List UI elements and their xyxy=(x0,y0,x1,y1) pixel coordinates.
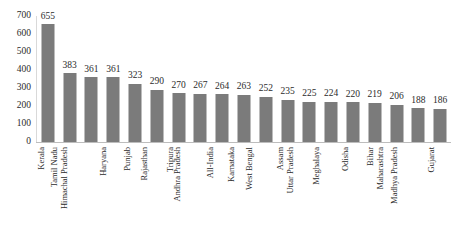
bar-value-label: 235 xyxy=(280,87,294,97)
x-tick-label: All-India xyxy=(207,147,216,178)
x-tick-label: Tamil Nadu xyxy=(50,147,59,187)
x-tick-label: Haryana xyxy=(99,147,108,176)
x-tick-slot: Odisha xyxy=(342,145,364,237)
bar-slot: 186 xyxy=(429,16,451,142)
bar-value-label: 206 xyxy=(389,92,403,102)
x-tick-label: Karnataka xyxy=(227,147,236,182)
bar[interactable] xyxy=(85,77,98,142)
bar-slot: 290 xyxy=(146,16,168,142)
y-tick-label: 400 xyxy=(17,65,31,75)
bar[interactable] xyxy=(216,94,229,142)
bar-slot: 270 xyxy=(168,16,190,142)
bar-slot: 220 xyxy=(342,16,364,142)
bar-value-label: 263 xyxy=(237,82,251,92)
y-tick-label: 600 xyxy=(17,29,31,39)
bar-value-label: 186 xyxy=(433,96,447,106)
x-tick-label: West Bengal xyxy=(244,147,253,190)
bar-value-label: 655 xyxy=(41,12,55,22)
bar-slot: 224 xyxy=(320,16,342,142)
bar[interactable] xyxy=(63,73,76,142)
x-tick-label: Madhya Pradesh xyxy=(390,147,399,204)
y-tick-label: 500 xyxy=(17,47,31,57)
bar-value-label: 224 xyxy=(324,89,338,99)
bar[interactable] xyxy=(172,93,185,142)
bar-slot: 252 xyxy=(255,16,277,142)
bar-slot: 225 xyxy=(298,16,320,142)
bar-slot: 383 xyxy=(59,16,81,142)
x-tick-label: Kerala xyxy=(37,147,46,170)
bar[interactable] xyxy=(281,100,294,142)
bar[interactable] xyxy=(390,105,403,142)
x-tick-slot: Meghalaya xyxy=(320,145,342,237)
x-tick-slot: Gujarat xyxy=(429,145,451,237)
y-tick-label: 100 xyxy=(17,119,31,129)
bar-slot: 206 xyxy=(386,16,408,142)
x-tick-label: Assam xyxy=(276,147,285,170)
bar-slot: 361 xyxy=(81,16,103,142)
x-tick-slot: West Bengal xyxy=(255,145,277,237)
bar-slot: 263 xyxy=(233,16,255,142)
bar[interactable] xyxy=(346,102,359,142)
bar[interactable] xyxy=(107,77,120,142)
x-axis-category-labels: KeralaTamil NaduHimachal PradeshHaryanaP… xyxy=(37,145,451,237)
bar[interactable] xyxy=(129,84,142,142)
x-axis-line xyxy=(36,142,451,143)
y-axis: 0100200300400500600700 xyxy=(0,0,34,145)
x-tick-label: Rajasthan xyxy=(140,147,149,181)
x-tick-label: Andhra Pradesh xyxy=(173,147,182,202)
y-tick-label: 300 xyxy=(17,83,31,93)
plot-area: 6553833613613232902702672642632522352252… xyxy=(37,16,451,142)
x-tick-label: Gujarat xyxy=(427,147,436,173)
bar-slot: 361 xyxy=(102,16,124,142)
x-tick-label: Bihar xyxy=(365,147,374,166)
bar-value-label: 361 xyxy=(106,65,120,75)
bar-slot: 235 xyxy=(277,16,299,142)
bar-value-label: 264 xyxy=(215,82,229,92)
bar[interactable] xyxy=(325,102,338,142)
bar[interactable] xyxy=(194,94,207,142)
bar-value-label: 270 xyxy=(172,81,186,91)
bar[interactable] xyxy=(41,24,54,142)
bar-value-label: 225 xyxy=(302,89,316,99)
y-tick-label: 700 xyxy=(17,11,31,21)
bar-chart: 0100200300400500600700 65538336136132329… xyxy=(0,0,455,237)
bar-value-label: 290 xyxy=(150,77,164,87)
bar-value-label: 188 xyxy=(411,96,425,106)
bar-value-label: 220 xyxy=(346,90,360,100)
bar-value-label: 219 xyxy=(368,90,382,100)
bar-slot: 655 xyxy=(37,16,59,142)
bar[interactable] xyxy=(237,95,250,142)
bar[interactable] xyxy=(259,97,272,142)
x-tick-label: Uttar Pradesh xyxy=(286,147,295,194)
y-tick-label: 200 xyxy=(17,101,31,111)
bar[interactable] xyxy=(150,90,163,142)
bar-slot: 323 xyxy=(124,16,146,142)
bar[interactable] xyxy=(368,103,381,142)
bar-value-label: 323 xyxy=(128,71,142,81)
bar-slot: 264 xyxy=(211,16,233,142)
bar-slot: 219 xyxy=(364,16,386,142)
x-tick-label: Meghalaya xyxy=(312,147,321,185)
y-tick-label: 0 xyxy=(26,137,31,147)
bar-value-label: 383 xyxy=(63,61,77,71)
bar-value-label: 252 xyxy=(259,84,273,94)
bar[interactable] xyxy=(434,109,447,142)
x-tick-label: Himachal Pradesh xyxy=(60,147,69,209)
bar[interactable] xyxy=(303,102,316,143)
x-tick-label: Odisha xyxy=(341,147,350,171)
bar-value-label: 267 xyxy=(193,81,207,91)
x-tick-label: Punjab xyxy=(123,147,132,171)
x-tick-label: Maharashtra xyxy=(375,147,384,189)
bar-value-label: 361 xyxy=(84,65,98,75)
bar-slot: 267 xyxy=(190,16,212,142)
bar[interactable] xyxy=(412,108,425,142)
bar-slot: 188 xyxy=(407,16,429,142)
x-tick-slot: Haryana xyxy=(102,145,124,237)
